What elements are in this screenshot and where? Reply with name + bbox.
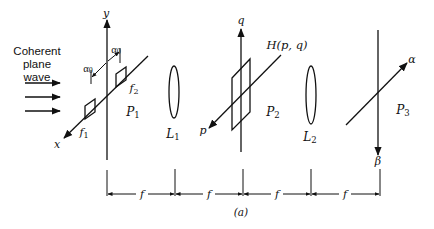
plane-p3-label: P3 xyxy=(395,103,410,118)
dimension-label-2: f xyxy=(206,188,213,201)
plane-p2-label: P2 xyxy=(265,105,280,120)
optical-correlator-diagram: Coherent plane wave y x f1 f2 α0 xyxy=(0,0,434,229)
biconvex-lens-icon xyxy=(306,66,316,124)
x-axis-label: x xyxy=(54,138,61,151)
plane-p1-label: P1 xyxy=(125,105,140,120)
spacing-arrow-left xyxy=(92,63,106,77)
beta-axis-label: β xyxy=(374,155,381,168)
p-axis-label: p xyxy=(199,124,206,137)
lens-l2: L2 xyxy=(302,66,316,145)
figure-label: (a) xyxy=(234,206,248,218)
spacing-label-right: α0 xyxy=(111,44,121,56)
aperture-f2 xyxy=(116,67,126,87)
output-plane-p3: β α P3 xyxy=(346,30,416,168)
x-axis xyxy=(64,56,148,138)
source-label-line-1: Coherent xyxy=(13,45,61,57)
lens-l1: L1 xyxy=(165,66,179,142)
filter-plane-p2: q p H(p, q) P2 xyxy=(199,14,307,152)
lens-l2-label: L2 xyxy=(302,130,316,145)
coherent-plane-wave-source: Coherent plane wave xyxy=(13,45,61,111)
filter-h-label: H(p, q) xyxy=(265,38,307,52)
source-label-line-3: wave xyxy=(23,71,51,83)
q-axis-label: q xyxy=(237,14,244,27)
biconvex-lens-icon xyxy=(169,66,179,118)
y-axis-label: y xyxy=(102,7,110,20)
dimension-label-1: f xyxy=(139,188,146,201)
aperture-f1-label: f1 xyxy=(78,126,88,140)
dimension-label-3: f xyxy=(274,188,281,201)
spacing-label-left: α0 xyxy=(83,63,93,75)
dimension-label-4: f xyxy=(342,188,349,201)
aperture-f2-label: f2 xyxy=(128,82,138,96)
lens-l1-label: L1 xyxy=(165,127,179,142)
alpha-axis-label: α xyxy=(408,53,416,66)
source-label-line-2: plane xyxy=(23,58,51,70)
input-plane-p1: y x f1 f2 α0 α0 P1 xyxy=(54,7,148,160)
focal-distance-dimensions: f f f f xyxy=(107,169,380,201)
